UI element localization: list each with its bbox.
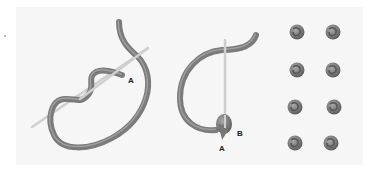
embroidery-diagram — [0, 0, 379, 169]
label-b-step-2: B — [237, 129, 243, 138]
label-a-step-2: A — [219, 144, 225, 153]
step-2-figure — [179, 34, 256, 140]
label-a-step-1: A — [128, 76, 134, 85]
finished-knots-grid — [288, 25, 342, 151]
